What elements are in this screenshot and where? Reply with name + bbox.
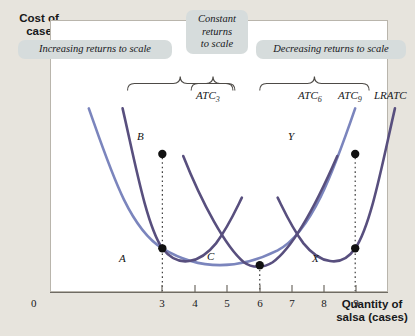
x-tick-label-5: 5: [219, 297, 235, 309]
point-A: [158, 244, 166, 252]
point-label-c: C: [207, 250, 214, 262]
point-label-b: B: [137, 130, 144, 142]
region-label-decreasing: Decreasing returns to scale: [256, 40, 406, 59]
point-X: [351, 244, 359, 252]
curve-label-atc6-sub: 6: [318, 95, 322, 104]
x-tick-label-7: 7: [284, 297, 300, 309]
point-label-y: Y: [288, 130, 294, 142]
curve-label-atc9: ATC9: [338, 89, 362, 104]
curve-label-lratc: LRATC: [374, 89, 407, 101]
curve-label-atc6: ATC6: [298, 89, 322, 104]
curve-label-atc3: ATC3: [196, 89, 220, 104]
plot-area: [50, 20, 388, 292]
point-label-a: A: [119, 252, 126, 264]
point-C: [256, 261, 264, 269]
x-tick-label-4: 4: [187, 297, 203, 309]
region-label-constant: Constant returns to scale: [186, 10, 248, 54]
point-B: [158, 150, 166, 158]
x-axis-title: Quantity of salsa (cases): [330, 298, 414, 324]
x-tick-label-6: 6: [252, 297, 268, 309]
curve-label-atc3-sub: 3: [216, 95, 220, 104]
point-label-x: X: [312, 252, 319, 264]
curve-label-atc9-base: ATC: [338, 89, 358, 101]
x-tick-label-3: 3: [154, 297, 170, 309]
region-label-increasing: Increasing returns to scale: [18, 40, 172, 59]
x-tick-label-0: 0: [31, 297, 37, 309]
curve-label-atc3-base: ATC: [196, 89, 216, 101]
curve-label-atc9-sub: 9: [358, 95, 362, 104]
figure-root: Cost of case: [0, 0, 415, 336]
curves-svg: [51, 21, 387, 291]
curve-label-atc6-base: ATC: [298, 89, 318, 101]
point-Y: [351, 150, 359, 158]
